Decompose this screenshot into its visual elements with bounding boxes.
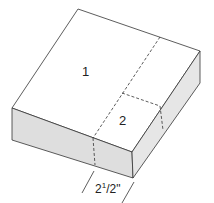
dimension-whole: 2 — [95, 182, 102, 196]
dimension-tick-left — [82, 171, 94, 193]
dimension-label: 21/2" — [95, 181, 120, 196]
region-1-label: 1 — [82, 64, 89, 79]
dimension-rest: /2" — [106, 182, 120, 196]
dimension-tick-right — [122, 182, 134, 203]
region-2-label: 2 — [119, 113, 126, 128]
box-diagram — [0, 0, 214, 203]
